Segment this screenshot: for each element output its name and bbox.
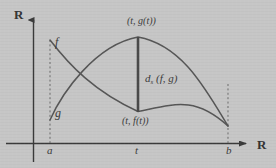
- sup-distance-subscript: s: [151, 78, 154, 86]
- sup-distance-label: ds (f, g): [145, 73, 177, 86]
- curve-label-g: g: [55, 107, 61, 119]
- tick-label-b: b: [226, 145, 232, 156]
- curve-label-f: f: [55, 36, 58, 48]
- point-label-lower: (t, f(t)): [122, 116, 149, 126]
- sup-distance-arguments: (f, g): [156, 72, 177, 84]
- point-label-upper: (t, g(t)): [127, 16, 156, 26]
- sup-metric-diagram: R R f g a t b (t, g(t)) (t, f(t)) ds (f,…: [0, 0, 276, 168]
- tick-label-t: t: [135, 145, 138, 156]
- x-axis-label: R: [257, 138, 266, 151]
- y-axis-label: R: [14, 8, 23, 21]
- tick-label-a: a: [47, 145, 53, 156]
